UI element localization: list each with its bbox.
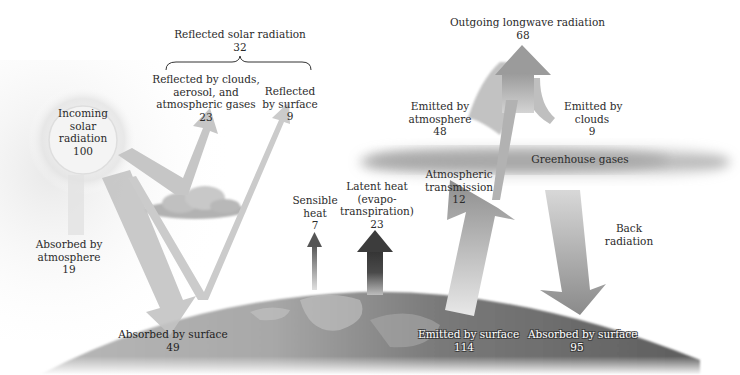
absorbed-atmosphere-beam xyxy=(68,175,84,235)
sensible-heat-arrow xyxy=(307,232,322,290)
latent-heat-label: Latent heat (evapo- transpiration) 23 xyxy=(340,180,414,230)
absorbed-atmosphere-label: Absorbed by atmosphere 19 xyxy=(30,238,108,276)
reflected-clouds-label: Reflected by clouds, aerosol, and atmosp… xyxy=(152,73,260,123)
reflected-surface-label: Reflected by surface 9 xyxy=(262,85,318,123)
reflected-solar-label: Reflected solar radiation 32 xyxy=(174,28,306,53)
sensible-heat-label: Sensible heat 7 xyxy=(290,194,340,232)
outgoing-longwave-label: Outgoing longwave radiation 68 xyxy=(450,16,596,41)
incoming-solar-label: Incoming solar radiation 100 xyxy=(55,107,111,157)
emitted-atmosphere-label: Emitted by atmosphere 48 xyxy=(408,100,472,138)
absorbed-surface-back-label: Absorbed by surface 95 xyxy=(528,328,626,353)
latent-heat-arrow xyxy=(357,230,393,295)
back-radiation-arrow xyxy=(540,190,606,315)
back-radiation-label: Back radiation xyxy=(604,222,654,247)
greenhouse-gases-label: Greenhouse gases xyxy=(530,153,630,166)
atmospheric-transmission-label: Atmospheric transmission 12 xyxy=(424,168,494,206)
absorbed-surface-solar-label: Absorbed by surface 49 xyxy=(108,328,238,353)
energy-budget-diagram: Reflected solar radiation 32 Reflected b… xyxy=(0,0,740,375)
emitted-surface-label: Emitted by surface 114 xyxy=(418,328,510,353)
emitted-clouds-label: Emitted by clouds 9 xyxy=(564,100,620,138)
